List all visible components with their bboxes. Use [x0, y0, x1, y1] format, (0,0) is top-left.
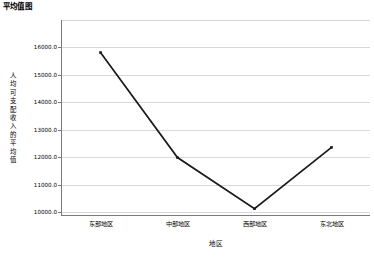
y-axis-tick-label: 13000.0: [15, 127, 57, 133]
y-axis-tick-labels: 10000.011000.012000.013000.014000.015000…: [10, 0, 57, 261]
gridline: [62, 102, 370, 103]
gridline: [62, 47, 370, 48]
gridline: [62, 185, 370, 186]
y-axis-tick-mark: [58, 157, 61, 158]
y-axis-tick-mark: [58, 185, 61, 186]
gridline: [62, 212, 370, 213]
y-axis-tick-label: 16000.0: [15, 44, 57, 50]
y-axis-tick-label: 15000.0: [15, 72, 57, 78]
x-axis-tick-label: 东部地区: [89, 220, 113, 228]
y-axis-tick-label: 14000.0: [15, 99, 57, 105]
y-axis-tick-label: 11000.0: [15, 182, 57, 188]
gridline: [62, 130, 370, 131]
x-axis-line: [61, 215, 370, 216]
y-axis-tick-mark: [58, 102, 61, 103]
mean-value-line-chart: 平均值图 人均可支配收入的平均值 10000.011000.012000.013…: [0, 0, 374, 261]
y-axis-tick-label: 12000.0: [15, 154, 57, 160]
plot-area: [62, 20, 370, 215]
x-axis-tick-label: 中部地区: [166, 220, 190, 228]
y-axis-tick-mark: [58, 47, 61, 48]
gridline: [62, 157, 370, 158]
gridline: [62, 75, 370, 76]
y-axis-tick-mark: [58, 212, 61, 213]
x-axis-tick-label: 西部地区: [243, 220, 267, 228]
y-axis-tick-mark: [58, 130, 61, 131]
x-axis-tick-label: 东北地区: [320, 220, 344, 228]
x-axis-title: 地区: [209, 240, 223, 249]
y-axis-tick-label: 10000.0: [15, 209, 57, 215]
y-axis-tick-mark: [58, 75, 61, 76]
